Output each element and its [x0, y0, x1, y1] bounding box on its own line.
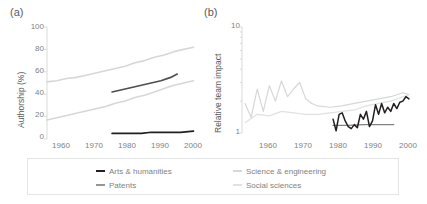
legend-item-arts-humanities[interactable]: Arts & humanities	[96, 165, 172, 177]
legend-column-left: Arts & humanities Patents	[96, 165, 172, 193]
legend-item-patents[interactable]: Patents	[96, 179, 172, 191]
legend-item-social-sciences[interactable]: Social sciences	[233, 179, 326, 191]
legend-swatch-icon-arts-humanities	[96, 170, 105, 172]
legend-label-patents: Patents	[109, 181, 136, 190]
series-science-engineering-b	[245, 95, 409, 123]
legend-label-arts-humanities: Arts & humanities	[109, 167, 172, 176]
legend-column-right: Science & engineering Social sciences	[233, 165, 326, 193]
legend-label-science-engineering: Science & engineering	[246, 167, 326, 176]
legend-swatch-icon-social-sciences	[233, 184, 242, 186]
figure-container: (a) Authorship (%) 100 80 60 40 20 0 196…	[0, 0, 427, 204]
series-patents-b	[333, 125, 394, 126]
legend-item-science-engineering[interactable]: Science & engineering	[233, 165, 326, 177]
legend: Arts & humanities Patents Science & engi…	[27, 158, 399, 195]
legend-label-social-sciences: Social sciences	[246, 181, 301, 190]
legend-swatch-icon-patents	[96, 184, 105, 186]
legend-swatch-icon-science-engineering	[233, 170, 242, 172]
panel-b-series-group	[245, 81, 409, 131]
